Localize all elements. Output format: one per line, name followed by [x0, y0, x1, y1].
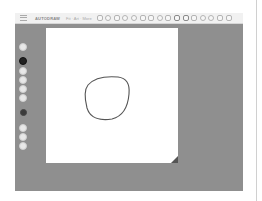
pencil-icon[interactable]: [19, 67, 27, 75]
suggestion-5-icon[interactable]: [131, 15, 137, 21]
suggestion-6-icon[interactable]: [140, 15, 146, 21]
delete-icon[interactable]: [19, 142, 27, 150]
suggestion-11-icon[interactable]: [183, 15, 189, 21]
suggestion-3-icon[interactable]: [114, 15, 120, 21]
zoom-icon[interactable]: [19, 124, 27, 132]
top-toolbar: AUTODRAW Fit · Art · More: [15, 13, 243, 24]
suggestion-7-icon[interactable]: [148, 15, 154, 21]
suggestion-4-icon[interactable]: [122, 15, 128, 21]
suggestion-13-icon[interactable]: [200, 15, 206, 21]
suggestion-12-icon[interactable]: [191, 15, 197, 21]
suggestion-9-icon[interactable]: [165, 15, 171, 21]
undo-icon[interactable]: [19, 133, 27, 141]
suggestion-2-icon[interactable]: [105, 15, 111, 21]
text-icon[interactable]: [19, 76, 27, 84]
toolbar-subtitle: Fit · Art · More: [66, 16, 92, 21]
shape-icon[interactable]: [19, 94, 27, 102]
suggestion-bar: [97, 15, 235, 21]
move-icon[interactable]: [19, 43, 27, 51]
drawn-circle-stroke: [46, 28, 178, 163]
suggestion-15-icon[interactable]: [217, 15, 223, 21]
resize-handle[interactable]: [171, 156, 178, 163]
suggestion-8-icon[interactable]: [157, 15, 163, 21]
suggestion-14-icon[interactable]: [208, 15, 214, 21]
hamburger-menu-icon[interactable]: [20, 15, 27, 21]
autodraw-icon[interactable]: [19, 57, 27, 65]
suggestion-10-icon[interactable]: [174, 15, 180, 21]
fill-icon[interactable]: [19, 85, 27, 93]
app-title: AUTODRAW: [35, 16, 60, 21]
suggestion-16-icon[interactable]: [226, 15, 232, 21]
color-swatch-icon[interactable]: [20, 109, 27, 116]
suggestion-1-icon[interactable]: [97, 15, 103, 21]
autodraw-app: AUTODRAW Fit · Art · More: [15, 13, 243, 191]
page-divider: [256, 0, 257, 201]
drawing-canvas[interactable]: [46, 28, 178, 163]
